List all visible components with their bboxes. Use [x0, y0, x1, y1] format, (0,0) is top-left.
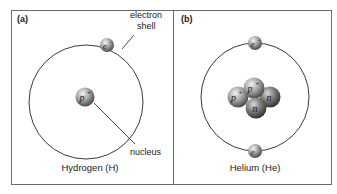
- svg-text:n: n: [267, 92, 272, 103]
- svg-text:e: e: [251, 40, 255, 49]
- electron-hydrogen: e −: [100, 38, 114, 52]
- electron-helium-top: e −: [248, 36, 262, 50]
- neutron-bottom: n: [246, 98, 267, 119]
- electron-helium-bottom: e −: [248, 144, 262, 158]
- svg-text:p: p: [247, 83, 253, 94]
- svg-text:p: p: [79, 92, 85, 103]
- svg-text:−: −: [109, 39, 113, 45]
- svg-text:p: p: [230, 92, 236, 103]
- panel-helium: (b) e − e − p + n: [181, 14, 309, 173]
- svg-text:e: e: [251, 148, 255, 157]
- shell-leader-line: [122, 35, 134, 49]
- panel-label-b: (b): [181, 14, 193, 24]
- caption-hydrogen: Hydrogen (H): [61, 162, 118, 173]
- callout-shell: shell: [137, 21, 156, 31]
- svg-text:+: +: [87, 89, 92, 97]
- svg-text:n: n: [253, 103, 258, 114]
- nucleus-leader-line: [94, 103, 135, 144]
- atom-diagram: (a) electron shell e − p + nucleus Hydro…: [0, 0, 337, 194]
- svg-text:+: +: [238, 89, 243, 97]
- callout-electron: electron: [130, 10, 162, 20]
- panel-hydrogen: (a) electron shell e − p + nucleus Hydro…: [17, 10, 162, 173]
- nucleus-helium: p + n p + n: [228, 78, 281, 119]
- svg-text:−: −: [257, 145, 261, 151]
- svg-text:e: e: [103, 42, 107, 51]
- proton-top: p +: [244, 78, 265, 99]
- proton-hydrogen: p +: [76, 88, 95, 107]
- svg-text:+: +: [255, 80, 260, 88]
- callout-nucleus: nucleus: [130, 147, 162, 157]
- svg-text:−: −: [257, 37, 261, 43]
- panel-label-a: (a): [17, 14, 28, 24]
- figure-frame: [12, 11, 332, 185]
- caption-helium: Helium (He): [230, 162, 281, 173]
